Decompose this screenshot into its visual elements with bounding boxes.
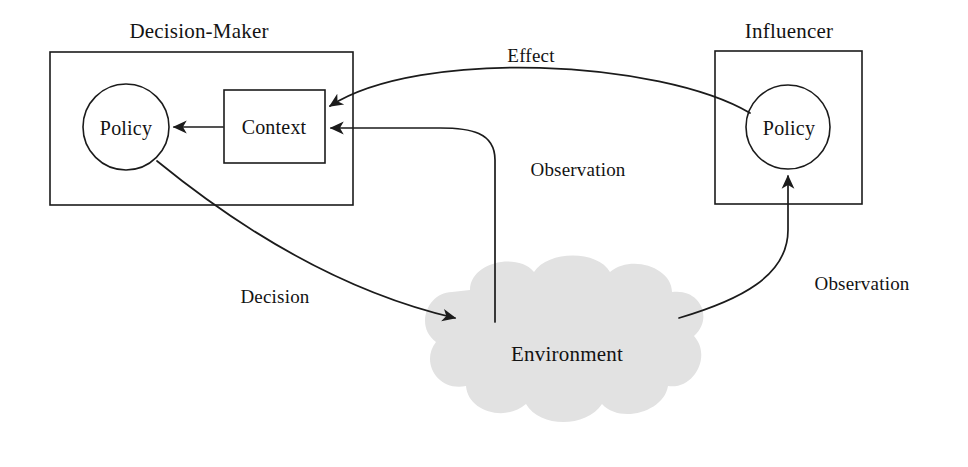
decision-maker-policy-label: Policy [100,117,152,140]
edge-effect [330,68,750,113]
environment-label: Environment [511,342,623,367]
decision-edge-label: Decision [240,286,309,308]
observation-center-edge-label: Observation [530,159,625,181]
effect-edge-label: Effect [507,45,554,67]
decision-maker-title: Decision-Maker [129,19,268,44]
diagram-canvas: Decision-Maker Influencer Policy Context… [0,0,968,467]
influencer-policy-label: Policy [763,117,815,140]
edge-observation-right [679,176,788,318]
environment-cloud [425,256,703,423]
diagram-graphics [0,0,968,467]
context-label: Context [242,116,307,139]
influencer-title: Influencer [745,19,833,44]
observation-right-edge-label: Observation [814,273,909,295]
